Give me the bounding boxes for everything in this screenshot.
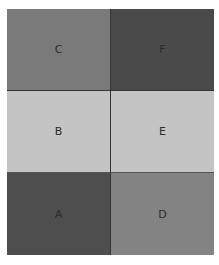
cell-label: B [55, 125, 63, 138]
cell-c: C [7, 9, 111, 91]
cell-b: B [7, 91, 111, 173]
cell-label: C [55, 43, 63, 56]
cell-label: F [159, 43, 165, 56]
cell-f: F [111, 9, 214, 91]
cell-label: D [158, 208, 166, 221]
cell-e: E [111, 91, 214, 173]
cell-a: A [7, 173, 111, 255]
cell-grid: C F B E A D [7, 9, 214, 255]
cell-label: A [55, 208, 63, 221]
cell-d: D [111, 173, 214, 255]
cell-label: E [159, 125, 166, 138]
